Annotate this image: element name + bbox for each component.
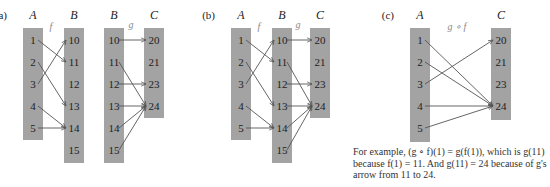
set-bar-b (104, 28, 124, 163)
set-element: 23 (315, 78, 327, 90)
mapping-arrow (425, 40, 493, 84)
mapping-arrow (425, 106, 493, 128)
set-element: 21 (496, 56, 507, 68)
function-label: g (296, 19, 301, 30)
mapping-arrow (425, 62, 493, 106)
set-element: 12 (69, 78, 80, 90)
set-element: 1 (417, 34, 423, 46)
set-name-c: C (497, 8, 506, 22)
function-label: f (50, 21, 54, 32)
set-name-a: A (28, 8, 37, 22)
set-element: 24 (496, 100, 508, 112)
panel-label-a: (a) (0, 9, 7, 22)
panel-label-c: (c) (382, 9, 395, 22)
set-element: 2 (417, 56, 423, 68)
set-element: 3 (30, 78, 36, 90)
set-element: 10 (277, 34, 289, 46)
set-element: 13 (109, 100, 121, 112)
panel-label-b: (b) (202, 9, 215, 22)
set-element: 2 (30, 56, 36, 68)
set-name-b: B (110, 8, 118, 22)
set-element: 13 (277, 100, 289, 112)
caption: For example, (g ∘ f)(1) = g(f(1)), which… (353, 146, 549, 181)
function-label: g (129, 19, 134, 30)
set-element: 15 (109, 144, 121, 156)
set-name-a: A (236, 8, 245, 22)
set-name-a: A (415, 8, 424, 22)
set-bar-b (272, 28, 292, 163)
set-element: 12 (277, 78, 288, 90)
set-element: 11 (277, 56, 288, 68)
function-label: f (258, 21, 262, 32)
set-name-c: C (316, 8, 325, 22)
set-bar-b (64, 28, 84, 163)
set-element: 14 (109, 122, 121, 134)
set-element: 14 (69, 122, 81, 134)
set-element: 10 (109, 34, 121, 46)
set-element: 15 (277, 144, 289, 156)
set-element: 20 (315, 34, 327, 46)
set-element: 3 (238, 78, 244, 90)
set-element: 2 (238, 56, 244, 68)
set-element: 5 (238, 122, 244, 134)
function-label: g ∘ f (448, 21, 468, 32)
set-element: 10 (69, 34, 81, 46)
set-element: 13 (69, 100, 81, 112)
set-element: 20 (496, 34, 508, 46)
set-element: 23 (149, 78, 161, 90)
set-element: 4 (238, 100, 244, 112)
set-element: 21 (315, 56, 326, 68)
set-element: 11 (109, 56, 120, 68)
set-element: 14 (277, 122, 289, 134)
set-element: 3 (417, 78, 423, 90)
set-element: 5 (30, 122, 36, 134)
set-element: 21 (149, 56, 160, 68)
set-name-c: C (150, 8, 159, 22)
set-element: 1 (238, 34, 244, 46)
set-element: 4 (30, 100, 36, 112)
mapping-arrow (425, 40, 493, 106)
set-element: 11 (69, 56, 80, 68)
set-element: 23 (496, 78, 508, 90)
set-element: 5 (417, 122, 423, 134)
set-element: 15 (69, 144, 81, 156)
set-element: 4 (417, 100, 423, 112)
set-name-b: B (70, 8, 78, 22)
set-name-b: B (278, 8, 286, 22)
set-element: 20 (149, 34, 161, 46)
set-element: 24 (315, 100, 327, 112)
set-element: 1 (30, 34, 36, 46)
set-element: 24 (149, 100, 161, 112)
set-element: 12 (109, 78, 120, 90)
